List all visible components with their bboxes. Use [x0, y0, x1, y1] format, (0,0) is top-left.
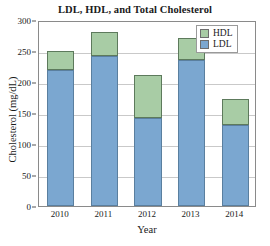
x-tick-label: 2013: [182, 209, 200, 219]
y-tick-label: 250: [18, 47, 32, 57]
bar-segment-ldl: [222, 125, 249, 206]
y-axis-title: Cholesterol (mg/dL): [7, 45, 18, 195]
bar-group: [91, 20, 118, 206]
bar-segment-hdl: [47, 51, 74, 70]
bar-segment-hdl: [91, 32, 118, 56]
x-axis-title: Year: [38, 224, 256, 235]
y-tick-label: 300: [18, 16, 32, 26]
bar-segment-ldl: [178, 60, 205, 206]
y-tick-label: 50: [22, 171, 31, 181]
y-tick-mark: [32, 145, 36, 146]
bar-segment-ldl: [47, 70, 74, 206]
bar-segment-hdl: [134, 75, 161, 118]
y-tick-mark: [32, 83, 36, 84]
y-tick-label: 0: [27, 202, 32, 212]
chart-title: LDL, HDL, and Total Cholesterol: [0, 4, 270, 15]
x-axis: 20102011201220132014: [38, 209, 256, 223]
y-tick-mark: [32, 52, 36, 53]
y-tick-mark: [32, 21, 36, 22]
legend-swatch-icon: [200, 40, 209, 49]
bar-group: [47, 20, 74, 206]
legend-item-hdl: HDL: [200, 28, 233, 39]
legend-swatch-icon: [200, 29, 209, 38]
y-tick-label: 100: [18, 140, 32, 150]
bar-segment-ldl: [91, 56, 118, 206]
legend-label: LDL: [213, 40, 231, 50]
x-tick-label: 2012: [138, 209, 156, 219]
x-tick-label: 2010: [51, 209, 69, 219]
y-tick-mark: [32, 176, 36, 177]
bar-segment-ldl: [134, 118, 161, 206]
x-tick-label: 2011: [95, 209, 113, 219]
y-axis: 050100150200250300: [0, 21, 36, 207]
legend-label: HDL: [213, 29, 233, 39]
x-tick-label: 2014: [225, 209, 243, 219]
y-tick-mark: [32, 207, 36, 208]
bar-segment-hdl: [222, 99, 249, 124]
cholesterol-bar-chart: LDL, HDL, and Total Cholesterol 05010015…: [0, 0, 270, 246]
y-tick-label: 200: [18, 78, 32, 88]
legend-item-ldl: LDL: [200, 39, 233, 50]
y-tick-label: 150: [18, 109, 32, 119]
chart-legend: HDLLDL: [196, 25, 238, 53]
y-tick-mark: [32, 114, 36, 115]
bar-group: [134, 20, 161, 206]
